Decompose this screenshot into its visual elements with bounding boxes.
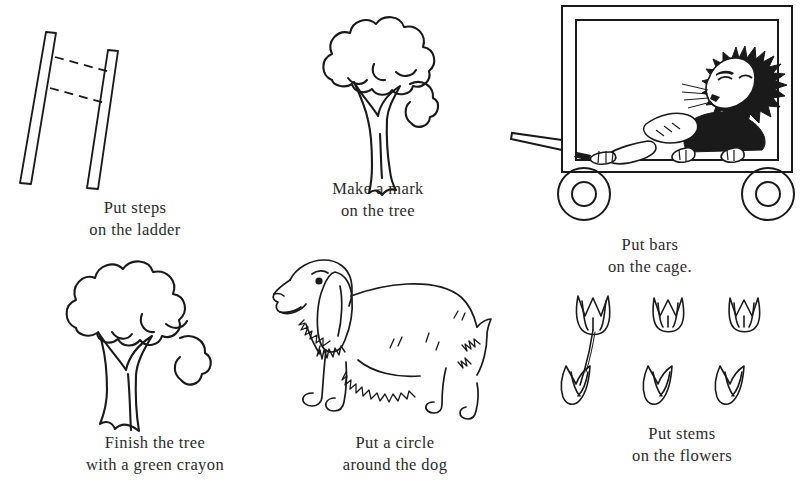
dog-illustration bbox=[250, 250, 540, 430]
dog-back bbox=[351, 284, 477, 327]
tree-canopy-lobe-right bbox=[406, 82, 438, 127]
tree-trunk-bark-line bbox=[380, 134, 382, 178]
tulip-top-left bbox=[577, 296, 610, 335]
caption-line-1: Put bars bbox=[496, 234, 804, 256]
caption-line-2: on the flowers bbox=[560, 445, 804, 467]
wagon-wheel-right bbox=[742, 168, 794, 220]
ladder-illustration bbox=[0, 8, 270, 193]
wagon-wheel-left-hub bbox=[572, 182, 596, 206]
tree-canopy-notch-2 bbox=[141, 314, 154, 332]
dog-coat-marks bbox=[390, 311, 465, 350]
dog-hind-leg-back bbox=[460, 383, 478, 419]
lion-back-highlight bbox=[644, 113, 698, 143]
tree-canopy-notch-2 bbox=[373, 64, 385, 80]
flowers-illustration bbox=[560, 288, 804, 413]
tree-canopy bbox=[323, 17, 434, 95]
caption-ladder: Put steps on the ladder bbox=[0, 197, 270, 241]
tree-canopy-notch-1 bbox=[112, 332, 132, 339]
exercise-dog: Put a circle around the dog bbox=[250, 250, 540, 476]
caption-line-2: on the cage. bbox=[496, 256, 804, 278]
exercise-cage: Put bars on the cage. bbox=[496, 0, 804, 278]
dog-eye-brow bbox=[312, 271, 328, 274]
tree-canopy-notch-3 bbox=[396, 70, 416, 76]
caption-line-1: Put stems bbox=[560, 423, 804, 445]
dog-belly bbox=[358, 360, 420, 376]
caption-line-2: on the ladder bbox=[0, 219, 270, 241]
tree-canopy-notch-3 bbox=[166, 321, 187, 328]
dog-hind-leg-front bbox=[426, 368, 446, 413]
tree-trunk-bark-line bbox=[128, 374, 131, 430]
wagon-wheel-left bbox=[558, 168, 610, 220]
tulip-bottom-middle bbox=[643, 366, 672, 404]
caption-line-1: Put a circle bbox=[250, 432, 540, 454]
dog-ear-fringe bbox=[317, 346, 345, 359]
dog-chest-fur bbox=[299, 320, 330, 346]
caption-line-1: Make a mark bbox=[258, 178, 498, 200]
caption-line-2: on the tree bbox=[258, 200, 498, 222]
caption-cage: Put bars on the cage. bbox=[496, 234, 804, 278]
exercise-flowers: Put stems on the flowers bbox=[560, 288, 804, 467]
caption-dog: Put a circle around the dog bbox=[250, 432, 540, 476]
tree-canopy-notch-1 bbox=[348, 78, 367, 84]
dog-ear-fold bbox=[338, 286, 342, 336]
dog-rear bbox=[477, 319, 491, 375]
lion-figure bbox=[574, 46, 787, 164]
tree-trunk bbox=[98, 332, 152, 431]
tulip-top-right bbox=[729, 298, 760, 332]
exercise-ladder: Put steps on the ladder bbox=[0, 8, 270, 241]
dog-nose bbox=[274, 294, 284, 296]
ladder-left-rail bbox=[20, 32, 56, 184]
tree-illustration-top bbox=[258, 2, 498, 172]
ladder-dashed-rung-2 bbox=[50, 88, 105, 103]
caption-flowers: Put stems on the flowers bbox=[560, 423, 804, 467]
tulip-bottom-right bbox=[715, 366, 744, 404]
wagon-wheel-right-hub bbox=[756, 182, 780, 206]
dog-eye bbox=[315, 277, 322, 284]
dog-hind-fur bbox=[458, 339, 480, 368]
worksheet-page: Put steps on the ladder bbox=[0, 0, 804, 492]
lion-cage-illustration bbox=[496, 0, 804, 228]
caption-tree-mark: Make a mark on the tree bbox=[258, 178, 498, 222]
wagon-handle bbox=[511, 133, 562, 150]
tulip-top-middle bbox=[653, 298, 684, 332]
tree-canopy-lobe-right bbox=[175, 336, 211, 384]
caption-line-2: around the dog bbox=[250, 454, 540, 476]
dog-muzzle bbox=[273, 280, 306, 314]
exercise-tree-mark: Make a mark on the tree bbox=[258, 2, 498, 222]
ladder-dashed-rung-1 bbox=[55, 57, 110, 72]
tree-canopy bbox=[67, 261, 185, 345]
lion-hind-paw-1 bbox=[672, 148, 695, 162]
caption-line-1: Put steps bbox=[0, 197, 270, 219]
dog-front-leg-back bbox=[326, 362, 347, 411]
